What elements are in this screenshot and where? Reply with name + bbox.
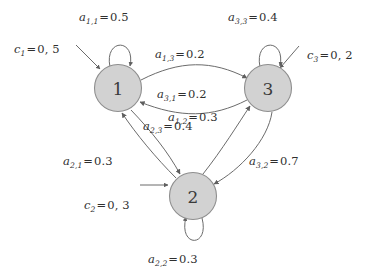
initial-arrow-c3 <box>280 46 299 68</box>
self-loop-state-2 <box>185 217 204 240</box>
diagram-canvas: 1 3 2 a1,1=0.5 a3,3=0.4 c1=0, 5 c3=0, 2 … <box>0 0 375 276</box>
state-node-1-label: 1 <box>113 79 124 99</box>
label-a22: a2,2=0.3 <box>148 254 198 266</box>
state-node-2-label: 2 <box>188 187 199 207</box>
label-c1: c1=0, 5 <box>14 44 60 56</box>
initial-arrow-c1 <box>76 45 100 69</box>
label-a11: a1,1=0.5 <box>79 12 129 24</box>
label-a31: a3,1=0.2 <box>157 89 207 101</box>
self-loop-state-3 <box>259 45 281 67</box>
state-node-3-label: 3 <box>263 79 274 99</box>
label-a23: a2,3=0.4 <box>143 121 193 133</box>
self-loop-state-1 <box>109 45 131 67</box>
transition-a32 <box>214 112 272 184</box>
label-c3: c3=0, 2 <box>307 50 353 62</box>
transition-a13 <box>141 65 247 80</box>
label-a21: a2,1=0.3 <box>63 156 113 168</box>
label-a13: a1,3=0.2 <box>155 49 205 61</box>
label-a32: a3,2=0.7 <box>249 156 299 168</box>
label-a33: a3,3=0.4 <box>228 12 278 24</box>
label-c2: c2=0, 3 <box>84 200 130 212</box>
